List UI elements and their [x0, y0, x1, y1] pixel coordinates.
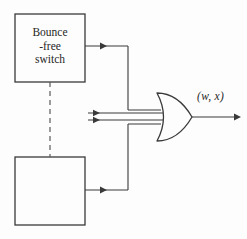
bounce-free-switch-bottom-box — [15, 157, 85, 225]
logic-diagram-canvas: Bounce -free switch (w, x) — [0, 0, 247, 239]
gate-output-arrowhead-icon — [234, 114, 241, 121]
bottom-wire-arrowhead-icon — [100, 187, 107, 194]
or-gate-shape — [157, 93, 192, 141]
top-wire-arrowhead-icon — [100, 43, 107, 50]
bounce-free-switch-top-box — [15, 14, 85, 82]
gate-input-upper-arrowhead-icon — [93, 110, 100, 116]
gate-output-label: (w, x) — [197, 90, 224, 102]
diagram-vector-layer — [0, 0, 247, 239]
gate-input-lower-arrowhead-icon — [93, 117, 100, 123]
